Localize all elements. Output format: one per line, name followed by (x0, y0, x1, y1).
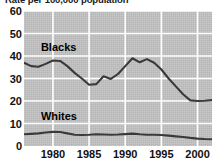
y-axis: 0102030405060 (0, 11, 22, 146)
y-axis-tick-label: 0 (0, 140, 22, 152)
line-chart: Rate per 100,000 population 010203040506… (0, 0, 220, 168)
series-label-whites: Whites (41, 110, 77, 122)
y-axis-tick-label: 40 (0, 50, 22, 62)
series-annotations: BlacksWhites (24, 11, 212, 146)
x-axis-tick-label: 1995 (149, 148, 173, 160)
x-axis-tick-label: 1985 (77, 148, 101, 160)
y-axis-tick-label: 60 (0, 5, 22, 17)
x-axis-tick-label: 1980 (41, 148, 65, 160)
y-axis-tick-label: 50 (0, 28, 22, 40)
chart-title: Rate per 100,000 population (5, 0, 128, 5)
x-axis-tick-label: 2000 (185, 148, 209, 160)
y-axis-tick-label: 30 (0, 73, 22, 85)
x-axis: 19801985199019952000 (24, 148, 212, 166)
x-axis-tick-label: 1990 (113, 148, 137, 160)
y-axis-tick-label: 20 (0, 95, 22, 107)
y-axis-tick-label: 10 (0, 118, 22, 130)
series-label-blacks: Blacks (41, 41, 76, 53)
plot-area: BlacksWhites (24, 11, 212, 146)
